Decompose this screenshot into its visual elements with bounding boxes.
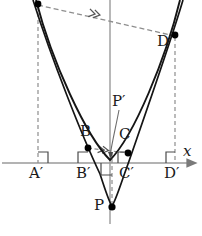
Pprime-pointer-curve bbox=[110, 110, 119, 156]
chord-AD-line bbox=[38, 5, 175, 36]
foot-label-C-prime: C′ bbox=[119, 166, 134, 181]
point-label-D: D bbox=[157, 34, 169, 49]
point-label-P-prime: P′ bbox=[112, 94, 126, 109]
right-angle-A bbox=[38, 152, 48, 163]
chord-AD-group bbox=[38, 5, 175, 36]
point-dot-C[interactable] bbox=[125, 150, 132, 157]
point-dot-A[interactable] bbox=[35, 1, 42, 8]
foot-label-B-prime: B′ bbox=[76, 166, 90, 181]
chord-AD-arrow-icon bbox=[88, 9, 100, 19]
x-axis-label: x bbox=[183, 144, 191, 159]
point-dot-B[interactable] bbox=[85, 145, 92, 152]
outer-parabola-group bbox=[36, 0, 180, 160]
foot-label-D-prime: D′ bbox=[164, 166, 179, 181]
outer-parabola-path bbox=[36, 0, 180, 160]
foot-label-A-prime: A′ bbox=[29, 166, 43, 181]
point-dot-P[interactable] bbox=[108, 203, 115, 210]
point-label-B: B bbox=[80, 124, 91, 139]
point-dot-D[interactable] bbox=[172, 32, 179, 39]
point-label-P: P bbox=[94, 198, 104, 213]
right-angle-B bbox=[78, 152, 88, 163]
figure-canvas: B C D P P′ A′ B′ C′ D′ x bbox=[0, 0, 202, 236]
right-angle-D bbox=[166, 152, 175, 163]
point-label-C: C bbox=[119, 127, 130, 142]
chord-BC-group bbox=[88, 146, 128, 154]
